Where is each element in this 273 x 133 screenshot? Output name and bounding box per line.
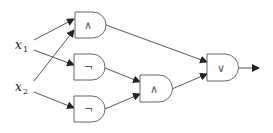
gate-or: ∨ [207, 54, 238, 81]
svg-text:2: 2 [23, 87, 28, 96]
svg-text:x: x [15, 38, 22, 52]
gate-not-2: ¬ [74, 96, 105, 122]
svg-text:¬: ¬ [84, 61, 93, 74]
wire-x2-to-and1 [34, 30, 74, 81]
svg-text:∧: ∧ [84, 19, 92, 32]
wire-not2-to-and2 [105, 94, 140, 109]
input-x2-label: x 2 [15, 80, 28, 96]
wire-not1-to-and2 [105, 68, 140, 82]
wire-x1-to-not1 [34, 50, 74, 65]
svg-text:x: x [15, 80, 22, 94]
svg-text:∧: ∧ [150, 83, 158, 96]
svg-text:1: 1 [23, 45, 28, 54]
wire-x1-to-and1 [34, 19, 74, 40]
input-x1-label: x 1 [15, 38, 28, 54]
logic-circuit-diagram: x 1 x 2 ∧ ¬ ¬ ∧ ∨ [0, 0, 273, 133]
svg-text:∨: ∨ [217, 62, 225, 75]
wire-and2-to-or [172, 74, 207, 89]
wire-and1-to-or [106, 25, 207, 62]
gate-and-2: ∧ [140, 75, 173, 102]
wire-x2-to-not2 [34, 92, 74, 108]
gate-not-1: ¬ [74, 54, 105, 80]
gate-and-1: ∧ [75, 12, 106, 38]
svg-text:¬: ¬ [84, 103, 93, 116]
